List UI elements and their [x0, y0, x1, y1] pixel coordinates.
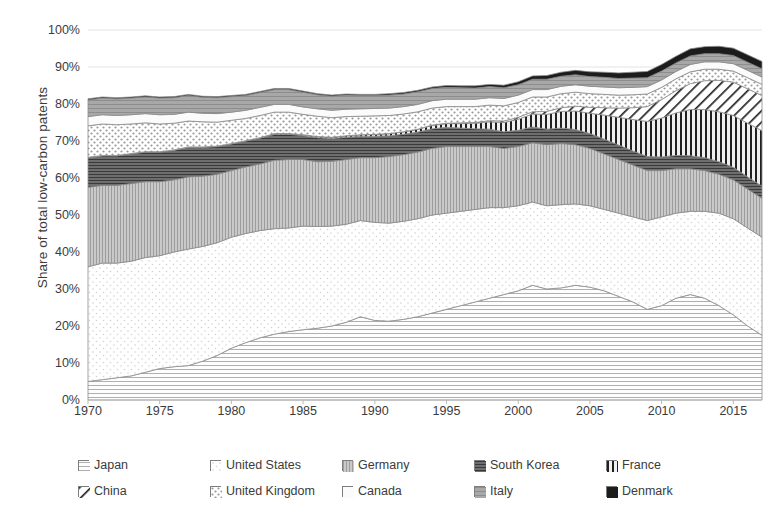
legend-label: United States	[226, 458, 301, 472]
legend-label: France	[622, 458, 661, 472]
legend-item-canada[interactable]: Canada	[342, 484, 474, 498]
legend-swatch-icon	[606, 486, 617, 497]
legend-label: United Kingdom	[226, 484, 315, 498]
legend-label: Germany	[358, 458, 409, 472]
legend-item-united-states[interactable]: United States	[210, 458, 342, 472]
legend-item-south-korea[interactable]: South Korea	[474, 458, 606, 472]
legend-swatch-icon	[606, 460, 617, 471]
stacked-area-plot	[0, 0, 775, 527]
legend-label: Denmark	[622, 484, 673, 498]
x-tick-1985: 1985	[289, 404, 317, 418]
legend-swatch-icon	[342, 486, 353, 497]
legend-swatch-icon	[474, 460, 485, 471]
x-tick-2000: 2000	[504, 404, 532, 418]
legend-item-france[interactable]: France	[606, 458, 738, 472]
legend-item-united-kingdom[interactable]: United Kingdom	[210, 484, 342, 498]
x-tick-2010: 2010	[648, 404, 676, 418]
chart-legend: JapanUnited StatesGermanySouth KoreaFran…	[78, 452, 738, 504]
chart-root: Share of total low-carbon patents 100%90…	[0, 0, 775, 527]
legend-item-italy[interactable]: Italy	[474, 484, 606, 498]
x-tick-1975: 1975	[146, 404, 174, 418]
legend-label: Canada	[358, 484, 402, 498]
x-tick-1995: 1995	[433, 404, 461, 418]
legend-label: Japan	[94, 458, 128, 472]
x-tick-2005: 2005	[576, 404, 604, 418]
legend-swatch-icon	[78, 460, 89, 471]
legend-swatch-icon	[342, 460, 353, 471]
x-tick-2015: 2015	[719, 404, 747, 418]
legend-swatch-icon	[210, 460, 221, 471]
legend-item-denmark[interactable]: Denmark	[606, 484, 738, 498]
legend-item-china[interactable]: China	[78, 484, 210, 498]
legend-item-germany[interactable]: Germany	[342, 458, 474, 472]
legend-label: South Korea	[490, 458, 560, 472]
x-tick-1970: 1970	[74, 404, 102, 418]
legend-label: China	[94, 484, 127, 498]
legend-item-japan[interactable]: Japan	[78, 458, 210, 472]
legend-swatch-icon	[210, 486, 221, 497]
legend-swatch-icon	[78, 486, 89, 497]
x-tick-1990: 1990	[361, 404, 389, 418]
legend-swatch-icon	[474, 486, 485, 497]
x-tick-1980: 1980	[217, 404, 245, 418]
legend-label: Italy	[490, 484, 513, 498]
